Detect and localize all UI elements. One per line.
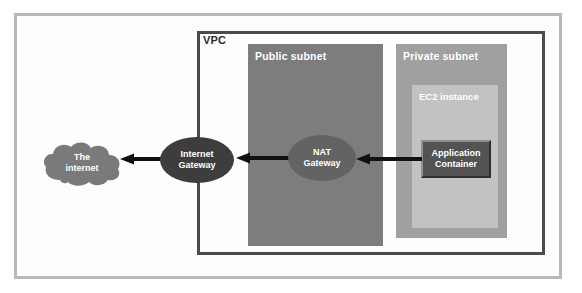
- internet-cloud-label: The internet: [40, 152, 124, 174]
- internet-cloud: The internet: [40, 140, 124, 188]
- internet-cloud-label-line2: internet: [65, 163, 98, 173]
- nat-gateway-label: NAT Gateway: [303, 147, 340, 169]
- internet-gateway-label-line1: Internet: [180, 149, 213, 159]
- internet-gateway-node: Internet Gateway: [160, 137, 234, 183]
- nat-gateway-node: NAT Gateway: [288, 135, 356, 181]
- nat-gateway-label-line2: Gateway: [303, 158, 340, 168]
- diagram-canvas: Public subnet Private subnet EC2 instanc…: [0, 0, 582, 293]
- internet-gateway-label-line2: Gateway: [178, 160, 215, 170]
- nat-gateway-label-line1: NAT: [313, 147, 331, 157]
- arrow-app-to-nat: [356, 153, 422, 165]
- arrow-igw-to-internet: [120, 153, 162, 165]
- vpc-label: VPC: [203, 34, 226, 46]
- internet-cloud-label-line1: The: [74, 152, 90, 162]
- internet-gateway-label: Internet Gateway: [178, 149, 215, 171]
- arrow-nat-to-igw: [236, 152, 290, 164]
- vpc-box: [197, 31, 545, 255]
